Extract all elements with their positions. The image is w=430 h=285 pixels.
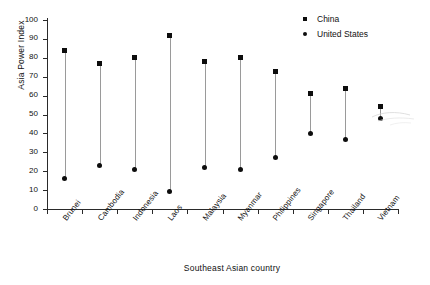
- legend-label: China: [317, 14, 339, 24]
- connector-line-malaysia: [205, 62, 206, 168]
- y-tick-label: 20: [29, 166, 38, 175]
- y-tick-label: 30: [29, 147, 38, 156]
- x-tick: [47, 209, 48, 214]
- x-category-label-singapore: Singapore: [306, 188, 336, 223]
- data-point-united-states-malaysia: [202, 165, 207, 170]
- y-tick-label: 40: [29, 128, 38, 137]
- circle-marker-icon: [303, 32, 317, 36]
- x-category-label-myanmar: Myanmar: [236, 190, 264, 222]
- data-point-china-singapore: [308, 91, 313, 96]
- data-point-china-philippines: [273, 69, 278, 74]
- y-tick-label: 10: [29, 185, 38, 194]
- data-point-china-malaysia: [202, 59, 207, 64]
- connector-line-singapore: [310, 94, 311, 134]
- y-tick-label: 100: [25, 15, 38, 24]
- data-point-united-states-singapore: [308, 131, 313, 136]
- y-tick-label: 0: [34, 204, 38, 213]
- asia-power-index-chart: Asia Power Index 0102030405060708090100 …: [0, 0, 430, 285]
- x-category-label-cambodia: Cambodia: [96, 188, 126, 223]
- data-point-united-states-laos: [167, 189, 172, 194]
- y-tick-20: 20: [43, 171, 48, 172]
- data-point-china-indonesia: [132, 55, 137, 60]
- x-tick: [328, 209, 329, 214]
- connector-line-cambodia: [100, 63, 101, 165]
- data-point-china-myanmar: [238, 55, 243, 60]
- x-category-label-vietnam: Vietnam: [376, 193, 402, 222]
- plot-area: 0102030405060708090100 BruneiCambodiaInd…: [47, 20, 398, 209]
- x-tick: [398, 209, 399, 214]
- data-point-china-laos: [167, 33, 172, 38]
- x-category-label-brunei: Brunei: [61, 198, 83, 222]
- x-category-label-philippines: Philippines: [271, 186, 303, 223]
- x-tick: [117, 209, 118, 214]
- x-tick: [258, 209, 259, 214]
- legend-label: United States: [317, 29, 368, 39]
- y-tick-30: 30: [43, 152, 48, 153]
- y-tick-label: 80: [29, 52, 38, 61]
- connector-line-philippines: [275, 71, 276, 158]
- x-tick: [363, 209, 364, 214]
- y-tick-label: 50: [29, 109, 38, 118]
- y-tick-50: 50: [43, 115, 48, 116]
- x-tick: [82, 209, 83, 214]
- y-tick-70: 70: [43, 77, 48, 78]
- data-point-united-states-vietnam: [378, 116, 383, 121]
- y-tick-40: 40: [43, 133, 48, 134]
- y-tick-label: 90: [29, 33, 38, 42]
- y-tick-label: 60: [29, 90, 38, 99]
- data-point-china-brunei: [62, 48, 67, 53]
- data-point-united-states-cambodia: [97, 163, 102, 168]
- connector-line-myanmar: [240, 58, 241, 170]
- y-tick-80: 80: [43, 58, 48, 59]
- data-point-china-vietnam: [378, 104, 383, 109]
- x-tick: [187, 209, 188, 214]
- data-point-china-cambodia: [97, 61, 102, 66]
- data-point-united-states-myanmar: [238, 167, 243, 172]
- data-point-united-states-thailand: [343, 137, 348, 142]
- x-category-label-thailand: Thailand: [341, 192, 367, 222]
- x-axis-title: Southeast Asian country: [52, 263, 412, 273]
- x-category-label-indonesia: Indonesia: [131, 189, 160, 223]
- y-tick-label: 70: [29, 71, 38, 80]
- x-tick: [152, 209, 153, 214]
- connector-line-brunei: [65, 50, 66, 179]
- x-category-label-malaysia: Malaysia: [201, 191, 228, 222]
- square-marker-icon: [303, 17, 317, 21]
- y-tick-10: 10: [43, 190, 48, 191]
- connector-line-laos: [170, 35, 171, 192]
- y-tick-60: 60: [43, 96, 48, 97]
- connector-line-indonesia: [135, 58, 136, 170]
- legend-item-united-states[interactable]: United States: [303, 26, 368, 41]
- connector-line-thailand: [345, 88, 346, 139]
- chart-legend: ChinaUnited States: [303, 11, 368, 41]
- x-category-label-laos: Laos: [166, 203, 184, 223]
- x-tick: [293, 209, 294, 214]
- legend-item-china[interactable]: China: [303, 11, 368, 26]
- data-point-united-states-brunei: [62, 176, 67, 181]
- y-tick-90: 90: [43, 39, 48, 40]
- y-tick-100: 100: [43, 20, 48, 21]
- data-point-united-states-philippines: [273, 155, 278, 160]
- data-point-united-states-indonesia: [132, 167, 137, 172]
- x-tick: [223, 209, 224, 214]
- data-point-china-thailand: [343, 86, 348, 91]
